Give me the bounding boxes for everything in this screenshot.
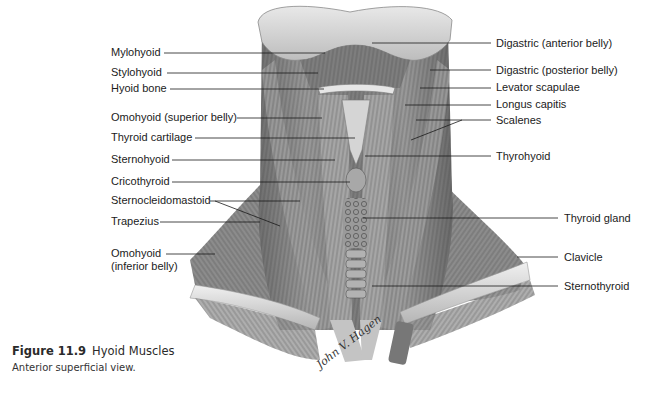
label-sternocleidomastoid: Sternocleidomastoid <box>111 194 211 207</box>
label-trapezius: Trapezius <box>111 215 159 228</box>
label-digastric-posterior: Digastric (posterior belly) <box>496 64 618 77</box>
label-thyroid-gland: Thyroid gland <box>564 212 631 225</box>
figure-number: Figure 11.9 <box>12 344 86 358</box>
label-thyrohyoid: Thyrohyoid <box>496 150 550 163</box>
figure-subtitle: Anterior superficial view. <box>12 362 175 373</box>
label-sternohyoid: Sternohyoid <box>111 153 170 166</box>
anatomy-figure: Mylohyoid Stylohyoid Hyoid bone Omohyoid… <box>0 0 663 412</box>
label-clavicle: Clavicle <box>564 251 603 264</box>
label-digastric-anterior: Digastric (anterior belly) <box>496 37 612 50</box>
cricoid-shape <box>346 168 366 192</box>
label-levator-scapulae: Levator scapulae <box>496 81 580 94</box>
label-cricothyroid: Cricothyroid <box>111 175 170 188</box>
figure-title: Hyoid Muscles <box>92 344 174 358</box>
label-omohyoid-inferior: Omohyoid <box>111 247 161 260</box>
figure-caption: Figure 11.9Hyoid Muscles Anterior superf… <box>12 340 175 373</box>
label-sternothyroid: Sternothyroid <box>564 280 629 293</box>
trachea <box>346 250 366 298</box>
label-scalenes: Scalenes <box>496 114 541 127</box>
label-stylohyoid: Stylohyoid <box>111 66 162 79</box>
label-mylohyoid: Mylohyoid <box>111 46 161 59</box>
label-omohyoid-superior: Omohyoid (superior belly) <box>111 111 237 124</box>
label-hyoid-bone: Hyoid bone <box>111 82 167 95</box>
label-thyroid-cartilage: Thyroid cartilage <box>111 131 192 144</box>
label-longus-capitis: Longus capitis <box>496 98 566 111</box>
label-omohyoid-inferior-belly: (inferior belly) <box>111 260 178 273</box>
